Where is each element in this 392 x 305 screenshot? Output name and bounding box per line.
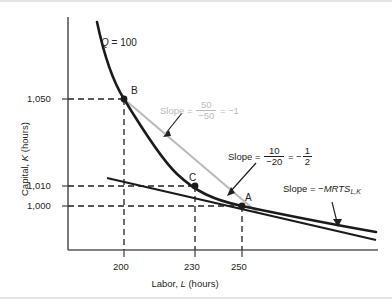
x-tick-label-250: 250 [231,262,247,272]
point-label-b: B [131,86,138,96]
x-axis-title-suffix: (hours) [186,278,219,289]
annotation-slope-secant: Slope = 50−50 = −1 [160,100,239,121]
isoquant-curve [97,22,376,232]
annotation-slope-chord-denominator: −20 [264,156,284,167]
point-label-a: A [245,193,252,203]
x-tick-label-200: 200 [113,262,129,272]
annotation-slope-secant-numerator: 50 [196,100,216,110]
x-axis-title-prefix: Labor, [151,278,180,289]
annotation-slope-mrts-subscript: L,K [350,188,361,195]
annotation-slope-secant-prefix: Slope = [160,105,195,116]
annotation-slope-chord-prefix: Slope = [228,151,263,162]
y-axis-title-prefix: Capital, [19,161,30,196]
annotation-slope-chord-result-denominator: 2 [303,156,312,167]
data-point-c[interactable] [192,183,199,190]
annotation-slope-chord-fraction: 10−20 [264,146,284,167]
annotation-slope-chord-numerator: 10 [264,146,284,156]
annotation-slope-mrts-prefix: Slope = − [283,183,324,194]
isoquant-label-value: = 100 [109,37,137,48]
data-point-b[interactable] [121,96,128,103]
isoquant-label-symbol: Q [101,37,109,48]
y-tick-label-1050: 1,050 [27,94,51,104]
annotation-slope-secant-fraction: 50−50 [196,100,216,121]
y-tick-label-1000: 1,000 [27,201,51,211]
x-tick-label-230: 230 [184,262,200,272]
annotation-slope-secant-denominator: −50 [196,110,216,121]
chart-canvas [0,0,392,305]
annotation-slope-chord-equals: = − [285,151,301,162]
y-axis-title: Capital, K (hours) [20,122,30,196]
annotation-slope-mrts-symbol: MRTS [324,183,351,194]
y-axis-title-suffix: (hours) [19,122,30,155]
y-axis-title-variable: K [19,155,30,161]
annotation-slope-chord-result-numerator: 1 [303,146,312,156]
annotation-arrow-chord-shaft [230,163,256,192]
x-axis-title: Labor, L (hours) [151,279,218,289]
isoquant-label: Q = 100 [101,38,137,48]
annotation-slope-chord: Slope = 10−20 = −12 [228,146,313,167]
data-point-a[interactable] [239,203,246,210]
annotation-slope-mrts: Slope = −MRTSL,K [283,184,361,195]
point-label-c: C [189,173,196,183]
y-tick-label-1010: 1,010 [27,181,51,191]
isoquant-figure: 1,050 1,010 1,000 200 230 250 Capital, K… [0,0,392,305]
annotation-slope-chord-result-fraction: 12 [303,146,312,167]
annotation-slope-secant-result: = −1 [217,105,239,116]
